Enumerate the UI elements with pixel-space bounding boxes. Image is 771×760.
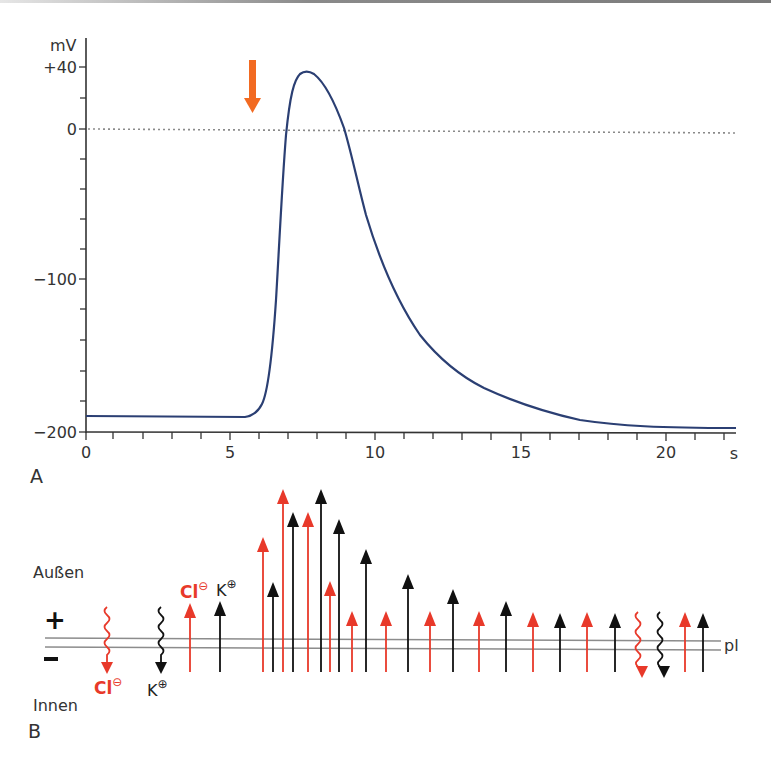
cl-arrow-icon xyxy=(277,489,289,672)
y-tick-label-minus200: −200 xyxy=(33,423,77,442)
membrane-outer-line xyxy=(45,638,721,641)
y-axis-unit: mV xyxy=(50,36,77,55)
k-arrow-icon xyxy=(214,601,226,672)
x-axis-unit: s xyxy=(730,444,738,463)
cl-ion-label-outside: Cl⊖ xyxy=(180,579,208,602)
membrane-inner-line xyxy=(45,647,721,650)
k-arrow-icon xyxy=(360,549,372,672)
inside-label: Innen xyxy=(33,696,78,715)
cl-influx-wavy-arrow-right-icon xyxy=(636,612,649,678)
panel-a-label: A xyxy=(30,465,43,487)
y-tick-label-minus100: −100 xyxy=(33,270,77,289)
cl-arrow-icon xyxy=(581,612,593,672)
cl-arrow-icon xyxy=(257,537,269,672)
panel-b-label: B xyxy=(28,720,41,742)
cl-arrow-icon xyxy=(473,611,485,672)
cl-arrow-icon xyxy=(324,581,336,672)
x-tick-label-10: 10 xyxy=(365,443,385,462)
x-tick-label-20: 20 xyxy=(656,443,676,462)
y-axis-ticks xyxy=(79,67,86,432)
figure-canvas: mV +40 0 −100 −200 xyxy=(0,0,771,760)
cl-arrow-icon xyxy=(527,612,539,672)
membrane-label: pl xyxy=(724,636,739,655)
membrane-potential-curve xyxy=(86,72,736,428)
y-tick-label-0: 0 xyxy=(67,120,77,139)
k-arrow-icon xyxy=(697,613,709,672)
k-arrow-icon xyxy=(447,589,459,672)
outside-label: Außen xyxy=(33,563,84,582)
x-tick-label-5: 5 xyxy=(225,443,235,462)
cl-arrow-icon xyxy=(346,611,358,672)
plus-sign: + xyxy=(44,605,66,635)
stimulus-arrow-icon xyxy=(244,60,261,113)
panel-b: Außen Innen B + pl Cl⊖ K⊕ Cl⊖ K⊕ xyxy=(28,489,739,742)
cl-ion-label-inside: Cl⊖ xyxy=(94,675,122,698)
x-tick-label-15: 15 xyxy=(511,443,531,462)
k-efflux-arrows xyxy=(214,489,709,672)
panel-a: mV +40 0 −100 −200 xyxy=(30,36,738,487)
cl-arrow-icon xyxy=(380,611,392,672)
cl-arrow-icon xyxy=(424,611,436,672)
k-arrow-icon xyxy=(500,601,512,672)
k-influx-wavy-arrow-right-icon xyxy=(658,612,671,678)
k-ion-label-outside: K⊕ xyxy=(216,577,237,600)
cl-influx-wavy-arrow-icon xyxy=(101,607,113,674)
k-arrow-icon xyxy=(554,613,566,672)
k-arrow-icon xyxy=(315,489,327,672)
k-influx-wavy-arrow-icon xyxy=(155,607,167,674)
x-tick-label-0: 0 xyxy=(81,443,91,462)
cl-arrow-icon xyxy=(184,603,196,672)
zero-reference-line xyxy=(88,129,738,133)
k-arrow-icon xyxy=(609,613,621,672)
cl-arrow-icon xyxy=(679,612,691,672)
y-tick-label-40: +40 xyxy=(43,58,77,77)
k-ion-label-inside: K⊕ xyxy=(147,677,168,700)
k-arrow-icon xyxy=(267,582,279,672)
minus-sign-icon xyxy=(44,657,58,661)
x-axis xyxy=(86,432,736,433)
k-arrow-icon xyxy=(402,574,414,672)
